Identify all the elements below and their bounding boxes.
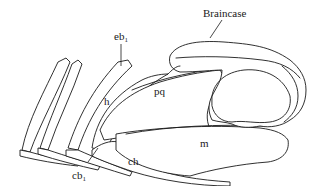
- label-braincase: Braincase: [203, 8, 246, 19]
- label-h: h: [104, 96, 110, 107]
- label-eb1-subscript: 1: [124, 36, 128, 44]
- label-eb1-text: eb: [114, 30, 124, 42]
- label-eb1: eb1: [114, 31, 128, 44]
- leader-braincase: [210, 20, 222, 38]
- label-ch: ch: [128, 156, 138, 167]
- label-cb1-text: cb: [72, 169, 82, 181]
- label-cb1-subscript: 1: [82, 175, 86, 183]
- anatomical-diagram: Braincase eb1 h pq m ch cb1: [0, 0, 328, 186]
- label-cb1: cb1: [72, 170, 86, 183]
- label-m: m: [200, 138, 209, 149]
- label-pq: pq: [154, 86, 165, 97]
